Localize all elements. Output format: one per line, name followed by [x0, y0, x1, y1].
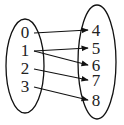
- codomain-element-4: 4: [92, 21, 101, 40]
- mapping-diagram: 012345678: [0, 0, 124, 125]
- codomain-element-7: 7: [92, 71, 101, 90]
- domain-element-0: 0: [21, 23, 30, 42]
- codomain-element-8: 8: [92, 91, 101, 110]
- arrow-0-to-4: [34, 30, 88, 33]
- domain-element-3: 3: [21, 77, 30, 96]
- arrow-2-to-7: [34, 69, 88, 80]
- domain-element-1: 1: [21, 41, 30, 60]
- domain-element-2: 2: [21, 59, 30, 78]
- arrow-1-to-6: [34, 51, 88, 65]
